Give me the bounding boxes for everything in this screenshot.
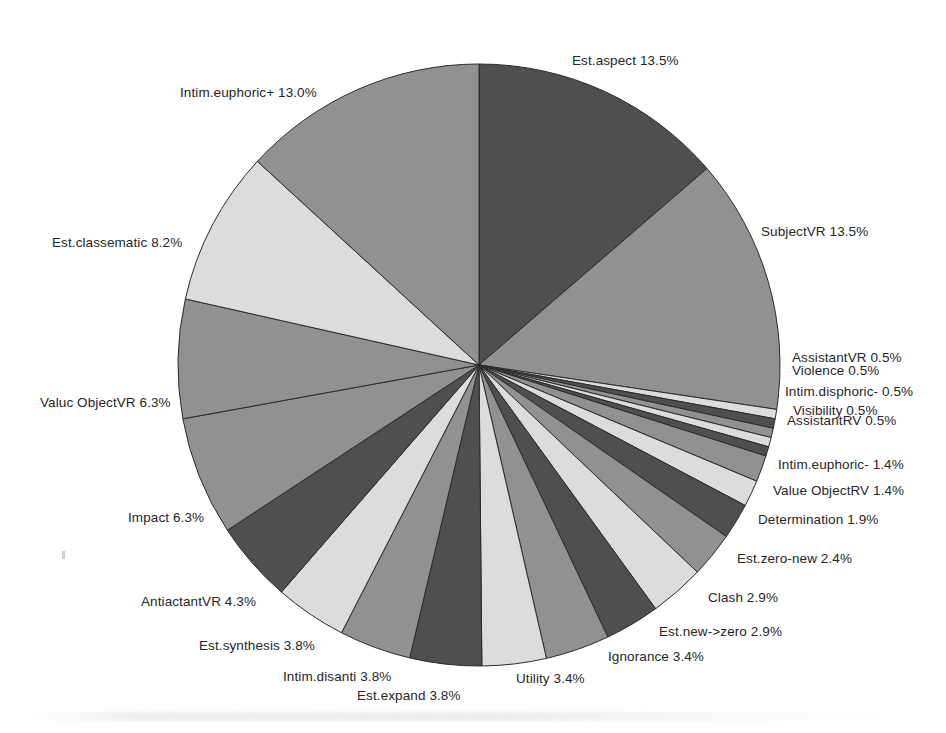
pie-slice-label: Violence 0.5%	[792, 363, 879, 378]
pie-slice-label: AssistantRV 0.5%	[787, 413, 896, 428]
pie-slice-label: Est.synthesis 3.8%	[199, 638, 315, 653]
pie-slice-label: Determination 1.9%	[758, 512, 878, 527]
pie-slice-label: Est.expand 3.8%	[357, 688, 461, 703]
pie-slice-label: Intim.disanti 3.8%	[283, 669, 391, 684]
pie-slice-label: Valuc ObjectVR 6.3%	[40, 395, 171, 410]
pie-slice-label: Est.new->zero 2.9%	[659, 624, 782, 639]
pie-slice-label: Impact 6.3%	[128, 510, 204, 525]
pie-slice-label: SubjectVR 13.5%	[761, 224, 868, 239]
scan-artifact-mark	[62, 551, 65, 559]
pie-slice-label: Utility 3.4%	[516, 671, 585, 686]
pie-slice-label: Intim.disphoric- 0.5%	[785, 384, 913, 399]
pie-slice-label: Intim.euphoric+ 13.0%	[180, 85, 317, 100]
pie-slice-label: Value ObjectRV 1.4%	[773, 483, 904, 498]
scan-smudge-band	[26, 712, 906, 721]
pie-slice-label: Est.aspect 13.5%	[572, 53, 679, 68]
pie-slice-label: Est.zero-new 2.4%	[737, 551, 852, 566]
pie-chart-page: Est.aspect 13.5%SubjectVR 13.5%Assistant…	[0, 0, 946, 733]
pie-chart-figure: Est.aspect 13.5%SubjectVR 13.5%Assistant…	[0, 0, 946, 733]
pie-slice-label: Intim.euphoric- 1.4%	[778, 457, 904, 472]
pie-slice-group	[178, 64, 780, 666]
pie-slice-label: Est.classematic 8.2%	[52, 235, 182, 250]
pie-slice-label: Clash 2.9%	[708, 590, 778, 605]
pie-slice-label: Ignorance 3.4%	[608, 649, 704, 664]
pie-slice-label: AntiactantVR 4.3%	[141, 594, 256, 609]
